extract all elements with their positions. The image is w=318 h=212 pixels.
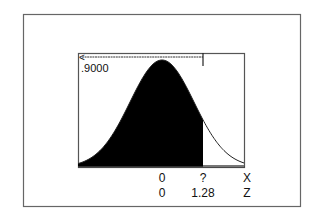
area-label: .9000 [81,62,109,74]
z-tick-cutoff: 1.28 [191,186,215,200]
z-axis-label: Z [243,186,250,200]
x-tick-mean: 0 [159,171,166,185]
arrow-head-icon: < [79,52,85,63]
normal-distribution-figure: < .9000 0 ? X 0 1.28 Z [0,0,318,212]
x-tick-cutoff: ? [200,171,207,185]
z-tick-mean: 0 [159,186,166,200]
x-axis-label: X [243,171,251,185]
